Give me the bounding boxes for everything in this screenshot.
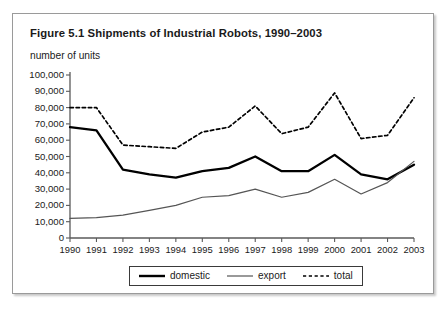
legend-label-domestic: domestic xyxy=(170,270,210,281)
legend-swatch-export xyxy=(227,272,253,280)
y-axis-tick-label: 30,000 xyxy=(8,184,64,194)
y-axis-tick-label: 20,000 xyxy=(8,200,64,210)
legend-item-total: total xyxy=(303,270,353,281)
x-axis-tick-label: 2003 xyxy=(399,245,429,255)
y-axis-tick-label: 90,000 xyxy=(8,86,64,96)
y-axis-tick-label: 40,000 xyxy=(8,168,64,178)
legend-label-export: export xyxy=(258,270,286,281)
chart-plot-area: 010,00020,00030,00040,00050,00060,00070,… xyxy=(13,14,435,295)
figure-frame: Figure 5.1 Shipments of Industrial Robot… xyxy=(12,13,434,294)
chart-series-total xyxy=(70,93,414,148)
legend-item-export: export xyxy=(227,270,286,281)
y-axis-tick-label: 0 xyxy=(8,233,64,243)
legend-swatch-total xyxy=(303,272,329,280)
legend-label-total: total xyxy=(334,270,353,281)
y-axis-tick-label: 60,000 xyxy=(8,135,64,145)
y-axis-tick-label: 80,000 xyxy=(8,103,64,113)
chart-series-export xyxy=(70,161,414,218)
y-axis-tick-label: 10,000 xyxy=(8,217,64,227)
legend-item-domestic: domestic xyxy=(139,270,210,281)
y-axis-tick-label: 70,000 xyxy=(8,119,64,129)
chart-series-domestic xyxy=(70,127,414,179)
chart-legend: domestic export total xyxy=(129,266,363,286)
y-axis-tick-label: 100,000 xyxy=(8,70,64,80)
y-axis-tick-label: 50,000 xyxy=(8,152,64,162)
legend-swatch-domestic xyxy=(139,272,165,280)
